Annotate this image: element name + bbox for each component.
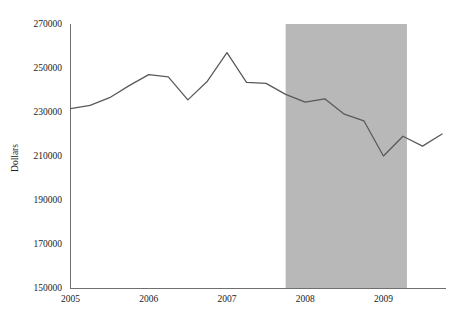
recession-shading — [286, 24, 407, 288]
plot-area — [0, 0, 458, 316]
line-chart: Dollars 270000 250000 230000 210000 1900… — [0, 0, 458, 316]
